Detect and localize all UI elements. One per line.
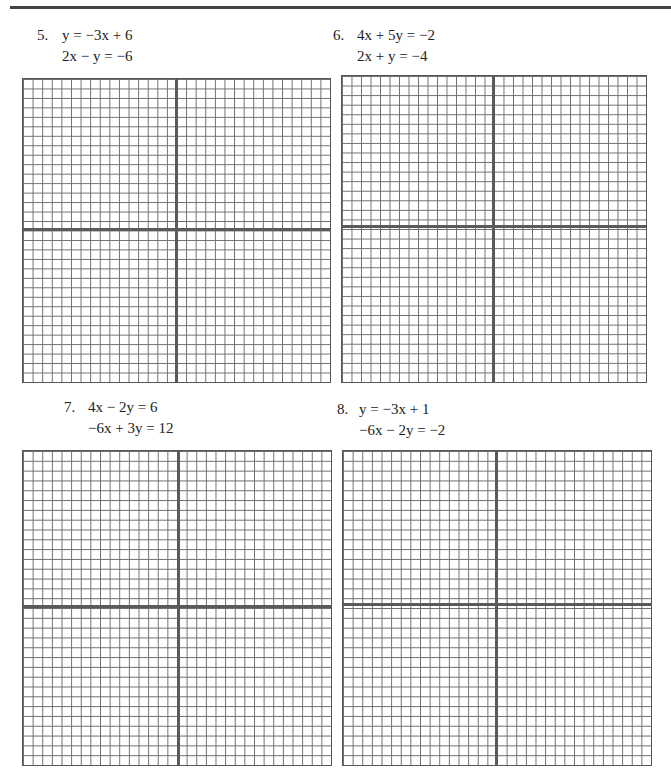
- x-axis: [23, 605, 331, 608]
- problem-number: 6.: [333, 26, 344, 45]
- coordinate-grid-5[interactable]: [22, 78, 331, 383]
- problem-number: 8.: [337, 400, 348, 419]
- coordinate-grid-7[interactable]: [22, 450, 332, 766]
- equation-2: −6x − 2y = −2: [359, 421, 445, 440]
- top-rule: [10, 6, 671, 9]
- equation-1: 4x + 5y = −2: [357, 26, 435, 45]
- equation-1: 4x − 2y = 6: [88, 398, 157, 417]
- problem-8: 8. y = −3x + 1 −6x − 2y = −2: [337, 400, 617, 444]
- problem-number: 7.: [64, 398, 75, 417]
- y-axis: [495, 451, 498, 765]
- y-axis: [177, 451, 180, 765]
- equation-2: 2x − y = −6: [62, 47, 132, 66]
- equation-1: y = −3x + 6: [62, 26, 132, 45]
- equation-2: −6x + 3y = 12: [88, 419, 173, 438]
- coordinate-grid-6[interactable]: [341, 75, 647, 383]
- x-axis: [23, 228, 330, 231]
- x-axis: [342, 225, 646, 228]
- problem-7: 7. 4x − 2y = 6 −6x + 3y = 12: [64, 398, 324, 442]
- problem-number: 5.: [37, 26, 48, 45]
- equation-1: y = −3x + 1: [359, 400, 429, 419]
- y-axis: [492, 76, 495, 382]
- problem-6: 6. 4x + 5y = −2 2x + y = −4: [333, 26, 613, 70]
- equation-2: 2x + y = −4: [357, 47, 427, 66]
- coordinate-grid-8[interactable]: [342, 450, 652, 766]
- x-axis: [343, 603, 651, 606]
- problem-5: 5. y = −3x + 6 2x − y = −6: [37, 26, 317, 70]
